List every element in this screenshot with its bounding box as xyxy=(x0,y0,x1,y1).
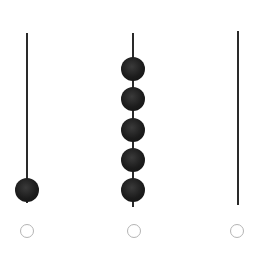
abacus-diagram xyxy=(0,0,262,258)
rod-1-radio-button[interactable] xyxy=(20,224,34,238)
bead-rod-2-1[interactable] xyxy=(121,57,145,81)
bead-rod-2-5[interactable] xyxy=(121,178,145,202)
bead-rod-2-3[interactable] xyxy=(121,118,145,142)
rod-2-radio-button[interactable] xyxy=(127,224,141,238)
bead-rod-2-4[interactable] xyxy=(121,148,145,172)
rod-3 xyxy=(237,31,239,205)
rod-3-radio-button[interactable] xyxy=(230,224,244,238)
bead-rod-2-2[interactable] xyxy=(121,87,145,111)
bead-rod-1-1[interactable] xyxy=(15,178,39,202)
